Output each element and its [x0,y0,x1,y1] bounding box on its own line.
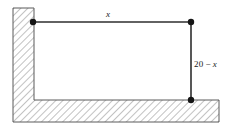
vertical-side-label-variable: x [213,59,217,69]
inscribed-rectangle-group [33,22,191,100]
top-left-vertex-dot [30,19,36,25]
horizontal-side-label-text: x [106,9,110,19]
vertical-side-label: 20−x [194,59,217,69]
vertex-dots-group [30,19,194,103]
vertical-side-label-constant: 20 [194,59,203,69]
figure-canvas: x 20−x [0,0,237,132]
horizontal-side-label: x [106,9,110,19]
l-shaped-wall [13,8,219,122]
wall-shape-group [13,8,219,122]
top-right-vertex-dot [188,19,194,25]
bottom-right-vertex-dot [188,97,194,103]
vertical-side-label-operator: − [203,59,212,69]
